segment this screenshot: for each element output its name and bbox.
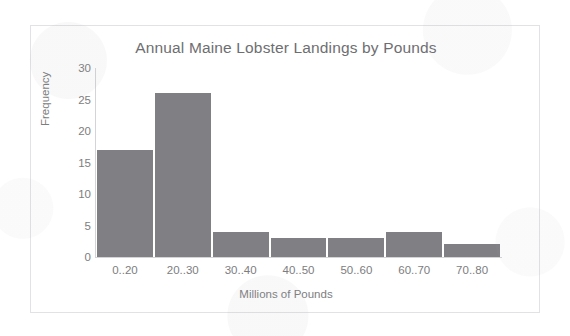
x-tick-label: 40..50 [270,264,328,276]
x-axis-line [95,257,502,258]
x-tick-label: 30..40 [212,264,270,276]
x-axis-tick-labels: 0..2020..3030..4040..5050..6060..7070..8… [96,264,501,276]
y-tick-label: 0 [51,251,91,263]
bar-slot [270,68,328,257]
y-tick-label: 20 [51,125,91,137]
bar-series [96,68,501,257]
chart-container: Annual Maine Lobster Landings by Pounds … [30,25,540,313]
y-tick-label: 15 [51,157,91,169]
x-axis-title: Millions of Pounds [31,288,541,300]
x-tick-label: 60..70 [385,264,443,276]
bar [386,232,442,257]
y-tick-label: 30 [51,62,91,74]
bar-slot [96,68,154,257]
bar-slot [443,68,501,257]
bar-slot [212,68,270,257]
y-tick-label: 5 [51,220,91,232]
x-tick-label: 50..60 [327,264,385,276]
bar [213,232,269,257]
bar-slot [154,68,212,257]
bar [97,150,153,257]
y-axis-tick-labels: 0 5 10 15 20 25 30 [41,68,91,257]
y-tick-label: 25 [51,94,91,106]
bar-slot [385,68,443,257]
bar [444,244,500,257]
chart-title: Annual Maine Lobster Landings by Pounds [31,39,541,57]
y-tick-label: 10 [51,188,91,200]
bar [271,238,327,257]
x-tick-label: 70..80 [443,264,501,276]
x-tick-label: 0..20 [96,264,154,276]
bar [155,93,211,257]
x-tick-label: 20..30 [154,264,212,276]
bar-slot [327,68,385,257]
bar [328,238,384,257]
